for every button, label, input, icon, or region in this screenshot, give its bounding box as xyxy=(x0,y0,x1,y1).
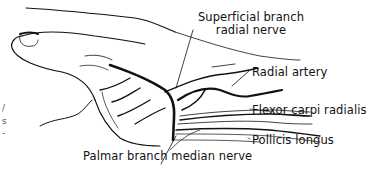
margin-fragment-2: s xyxy=(2,116,7,126)
label-palmar-branch-median-nerve: Palmar branch median nerve xyxy=(83,150,252,163)
label-flexor-carpi-radialis: Flexor carpi radialis xyxy=(252,104,367,117)
margin-fragment-1: / xyxy=(2,103,5,113)
margin-fragment-3: - xyxy=(2,128,5,138)
label-pollicis-longus: Pollicis longus xyxy=(252,134,334,147)
hand-wrist-drawing xyxy=(0,0,370,174)
label-radial-artery: Radial artery xyxy=(252,66,327,79)
illustration-canvas: Superficial branch radial nerve Radial a… xyxy=(0,0,370,174)
label-line-2: radial nerve xyxy=(196,24,306,37)
label-superficial-branch-radial-nerve: Superficial branch radial nerve xyxy=(196,11,306,37)
